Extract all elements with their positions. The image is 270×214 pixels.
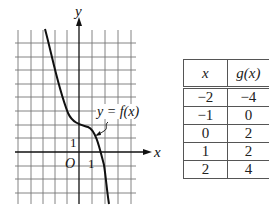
- pointer-arrowhead-icon: [95, 131, 101, 136]
- table-header-row: x g(x): [184, 60, 270, 88]
- cell-gx: −4: [227, 88, 269, 107]
- table-row: 0 2: [184, 125, 270, 143]
- cell-gx: 2: [227, 143, 269, 161]
- curve-label: y = f(x): [95, 104, 139, 120]
- header-x: x: [184, 60, 228, 88]
- table-row: −1 0: [184, 107, 270, 125]
- cell-gx: 4: [227, 161, 269, 179]
- cell-x: −2: [184, 88, 228, 107]
- function-graph: y x O 1 1 y = f(x): [0, 0, 170, 214]
- y-tick-1-label: 1: [70, 135, 77, 150]
- cell-x: −1: [184, 107, 228, 125]
- header-gx: g(x): [227, 60, 269, 88]
- table-row: 1 2: [184, 143, 270, 161]
- origin-label: O: [65, 156, 75, 171]
- x-axis-arrow-icon: [143, 149, 152, 155]
- cell-x: 1: [184, 143, 228, 161]
- cell-x: 0: [184, 125, 228, 143]
- g-values-table: x g(x) −2 −4 −1 0 0 2 1 2 2 4: [183, 59, 269, 179]
- table-row: 2 4: [184, 161, 270, 179]
- table-row: −2 −4: [184, 88, 270, 107]
- cell-gx: 2: [227, 125, 269, 143]
- x-tick-1-label: 1: [88, 156, 95, 171]
- cell-x: 2: [184, 161, 228, 179]
- cell-gx: 0: [227, 107, 269, 125]
- y-axis-label: y: [73, 3, 82, 19]
- x-axis-label: x: [153, 144, 161, 160]
